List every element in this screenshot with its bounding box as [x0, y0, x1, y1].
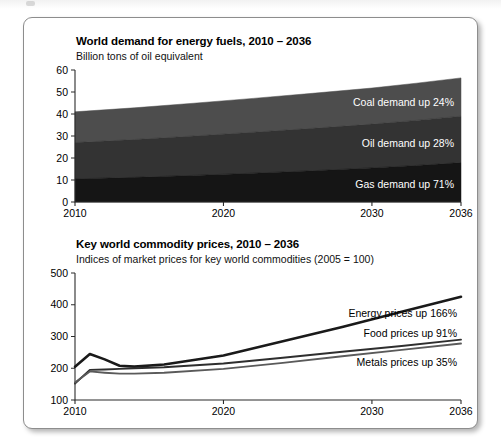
clipped-top-strip: [0, 0, 501, 9]
y-tick-label: 10: [56, 174, 68, 186]
x-tick-label: 2010: [63, 207, 87, 219]
line-chart-commodity-prices: 1002003004005002010202020302036Energy pr…: [24, 265, 478, 429]
y-tick-label: 50: [56, 86, 68, 98]
area-chart-energy-demand: 01020304050602010202020302036Gas demand …: [24, 62, 478, 232]
x-tick-label: 2020: [212, 405, 236, 417]
series-label-energy: Energy prices up 166%: [348, 307, 457, 319]
chart-subtitle-energy-demand: Billion tons of oil equivalent: [76, 50, 203, 62]
x-tick-label: 2010: [63, 405, 87, 417]
y-tick-label: 0: [62, 196, 68, 208]
x-tick-label: 2020: [212, 207, 236, 219]
chart-subtitle-commodity-prices: Indices of market prices for key world c…: [76, 253, 374, 265]
y-tick-label: 60: [56, 64, 68, 76]
series-label-gas: Gas demand up 71%: [355, 178, 454, 190]
y-tick-label: 300: [50, 330, 68, 342]
y-tick-label: 40: [56, 108, 68, 120]
series-label-coal: Coal demand up 24%: [353, 96, 454, 108]
x-tick-label: 2030: [360, 207, 384, 219]
y-tick-label: 200: [50, 362, 68, 374]
y-tick-label: 100: [50, 394, 68, 406]
x-tick-label: 2036: [449, 207, 473, 219]
y-tick-label: 400: [50, 298, 68, 310]
y-tick-label: 20: [56, 152, 68, 164]
x-tick-label: 2030: [360, 405, 384, 417]
series-label-food: Food prices up 91%: [364, 327, 457, 339]
y-tick-label: 500: [50, 267, 68, 279]
chart-title-energy-demand: World demand for energy fuels, 2010 – 20…: [76, 35, 311, 47]
series-label-oil: Oil demand up 28%: [362, 137, 454, 149]
series-label-metals: Metals prices up 35%: [357, 356, 457, 368]
chart-title-commodity-prices: Key world commodity prices, 2010 – 2036: [76, 238, 299, 250]
y-tick-label: 30: [56, 130, 68, 142]
x-tick-label: 2036: [449, 405, 473, 417]
chart-panel-energy-demand: World demand for energy fuels, 2010 – 20…: [24, 26, 478, 236]
clipped-artifact: [26, 1, 35, 6]
figure-card: World demand for energy fuels, 2010 – 20…: [23, 17, 478, 429]
chart-panel-commodity-prices: Key world commodity prices, 2010 – 2036 …: [24, 232, 478, 429]
